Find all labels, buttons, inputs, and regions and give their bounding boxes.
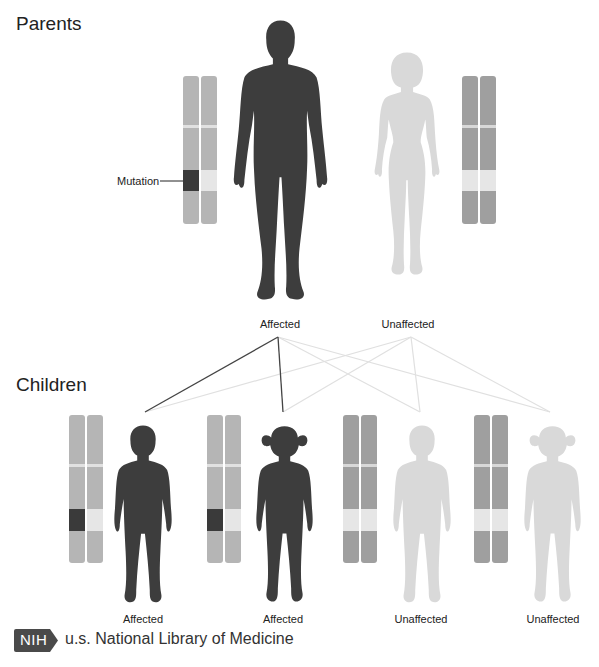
inheritance-lines xyxy=(145,337,550,412)
mutation-label: Mutation xyxy=(117,175,159,187)
nih-logo-text: NIH xyxy=(20,631,47,648)
parents-title: Parents xyxy=(16,13,81,35)
child-3-figure xyxy=(393,426,450,603)
child-1-status-label: Affected xyxy=(93,613,193,625)
child-3-chromosome-pair xyxy=(343,415,377,563)
nlm-logo-text: u.s. National Library of Medicine xyxy=(65,630,294,648)
child-2-status-label: Affected xyxy=(233,613,333,625)
child-2-figure xyxy=(256,426,312,601)
father-figure xyxy=(234,21,327,300)
child-4-status-label: Unaffected xyxy=(503,613,599,625)
mother-figure xyxy=(375,53,440,275)
children-title: Children xyxy=(16,374,87,396)
child-3-status-label: Unaffected xyxy=(371,613,471,625)
child-2-chromosome-pair xyxy=(207,415,241,563)
mother-status-label: Unaffected xyxy=(358,318,458,330)
mutation-band xyxy=(183,170,199,191)
child-4-figure xyxy=(524,426,580,601)
child-1-chromosome-pair xyxy=(69,415,103,563)
child-1-figure xyxy=(114,426,171,603)
mother-chromosome-pair xyxy=(462,76,496,224)
child-4-chromosome-pair xyxy=(474,415,508,563)
father-status-label: Affected xyxy=(230,318,330,330)
father-chromosome-pair xyxy=(160,76,217,224)
inheritance-diagram xyxy=(0,0,599,667)
